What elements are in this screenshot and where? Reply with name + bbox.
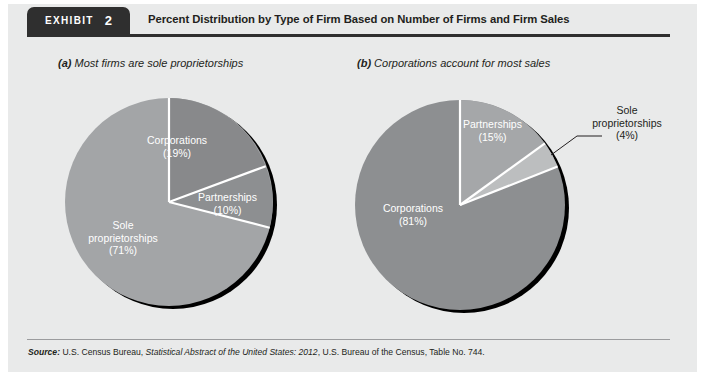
panel-b-marker: (b) [357,57,371,69]
exhibit-badge-word: EXHIBIT [45,15,94,26]
source-publication-title: Statistical Abstract of the United State… [146,347,318,357]
panel-a-caption: (a) Most firms are sole proprietorships [58,57,243,69]
panel-a-caption-text: Most firms are sole proprietorships [71,57,243,69]
pie-b-label-sole-proprietorships: Soleproprietorships(4%) [577,104,677,142]
pie-chart-a [36,78,316,328]
panel-b-caption: (b) Corporations account for most sales [357,57,550,69]
exhibit-badge: EXHIBIT 2 [27,7,130,34]
pie-b-label-corporations: Corporations(81%) [358,202,468,227]
panel-b-caption-text: Corporations account for most sales [371,57,550,69]
header-divider [27,34,670,37]
exhibit-badge-number: 2 [105,13,112,28]
panel-a-marker: (a) [58,57,71,69]
pie-a-label-sole-proprietorships: Soleproprietorships(71%) [64,219,182,257]
source-text-2: , U.S. Bureau of the Census, Table No. 7… [318,347,485,357]
source-note: Source: U.S. Census Bureau, Statistical … [28,347,485,357]
exhibit-page: EXHIBIT 2 Percent Distribution by Type o… [0,0,705,376]
pie-a-label-corporations: Corporations(19%) [147,134,207,159]
pie-b-label-partnerships: Partnerships(15%) [463,118,522,143]
pie-a-label-partnerships: Partnerships(10%) [198,191,257,216]
footer-divider [27,339,670,340]
exhibit-title: Percent Distribution by Type of Firm Bas… [148,13,570,25]
source-text-1: U.S. Census Bureau, [60,347,146,357]
source-label: Source: [28,347,60,357]
